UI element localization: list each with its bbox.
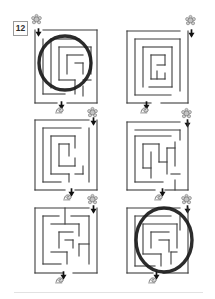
finish-marker [54, 275, 65, 286]
finish-marker [139, 105, 150, 116]
exit-down-arrow-icon [159, 183, 166, 192]
finish-marker [153, 192, 164, 203]
exit-down-arrow-icon [153, 266, 160, 275]
exit-down-arrow-icon [60, 266, 67, 275]
finish-snail-icon [54, 105, 65, 114]
maze-walls [127, 122, 188, 190]
exit-down-arrow-icon [143, 96, 150, 105]
finish-snail-icon [153, 192, 164, 201]
finish-snail-icon [139, 105, 150, 114]
puzzle-number-badge: 12 [13, 21, 28, 36]
finish-marker [62, 192, 73, 203]
maze-4-cell [127, 122, 188, 190]
finish-marker [147, 275, 158, 286]
exit-down-arrow-icon [58, 96, 65, 105]
maze-walls [127, 208, 188, 273]
maze-6-cell [127, 208, 188, 273]
maze-1-cell [35, 30, 97, 103]
page-edge-shadow [14, 292, 203, 293]
maze-2-cell [127, 31, 188, 103]
maze-walls [35, 208, 97, 273]
maze-walls [127, 31, 188, 103]
finish-snail-icon [62, 192, 73, 201]
finish-snail-icon [147, 275, 158, 284]
finish-snail-icon [54, 275, 65, 284]
maze-walls [35, 120, 97, 190]
finish-marker [54, 105, 65, 116]
maze-3-cell [35, 120, 97, 190]
maze-walls [35, 30, 97, 103]
exit-down-arrow-icon [68, 183, 75, 192]
entrance-down-arrow-icon [188, 24, 195, 33]
maze-5-cell [35, 208, 97, 273]
worksheet-page: 12 [0, 0, 215, 299]
